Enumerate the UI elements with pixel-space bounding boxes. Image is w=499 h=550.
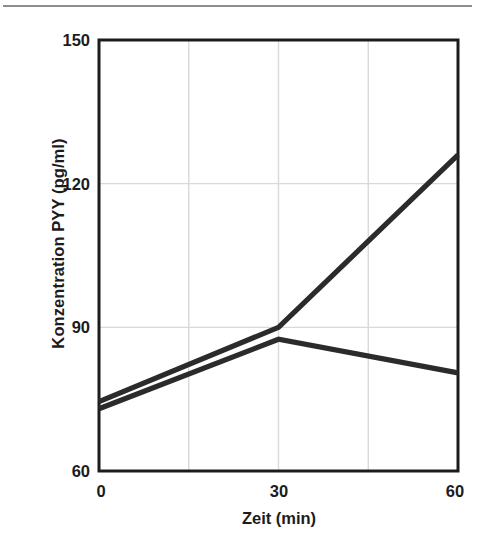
figure-container: Konzentration PYY (pg/ml) 150 120 90 60 … xyxy=(0,0,499,550)
plot-area xyxy=(0,0,499,550)
gridlines xyxy=(99,40,458,471)
